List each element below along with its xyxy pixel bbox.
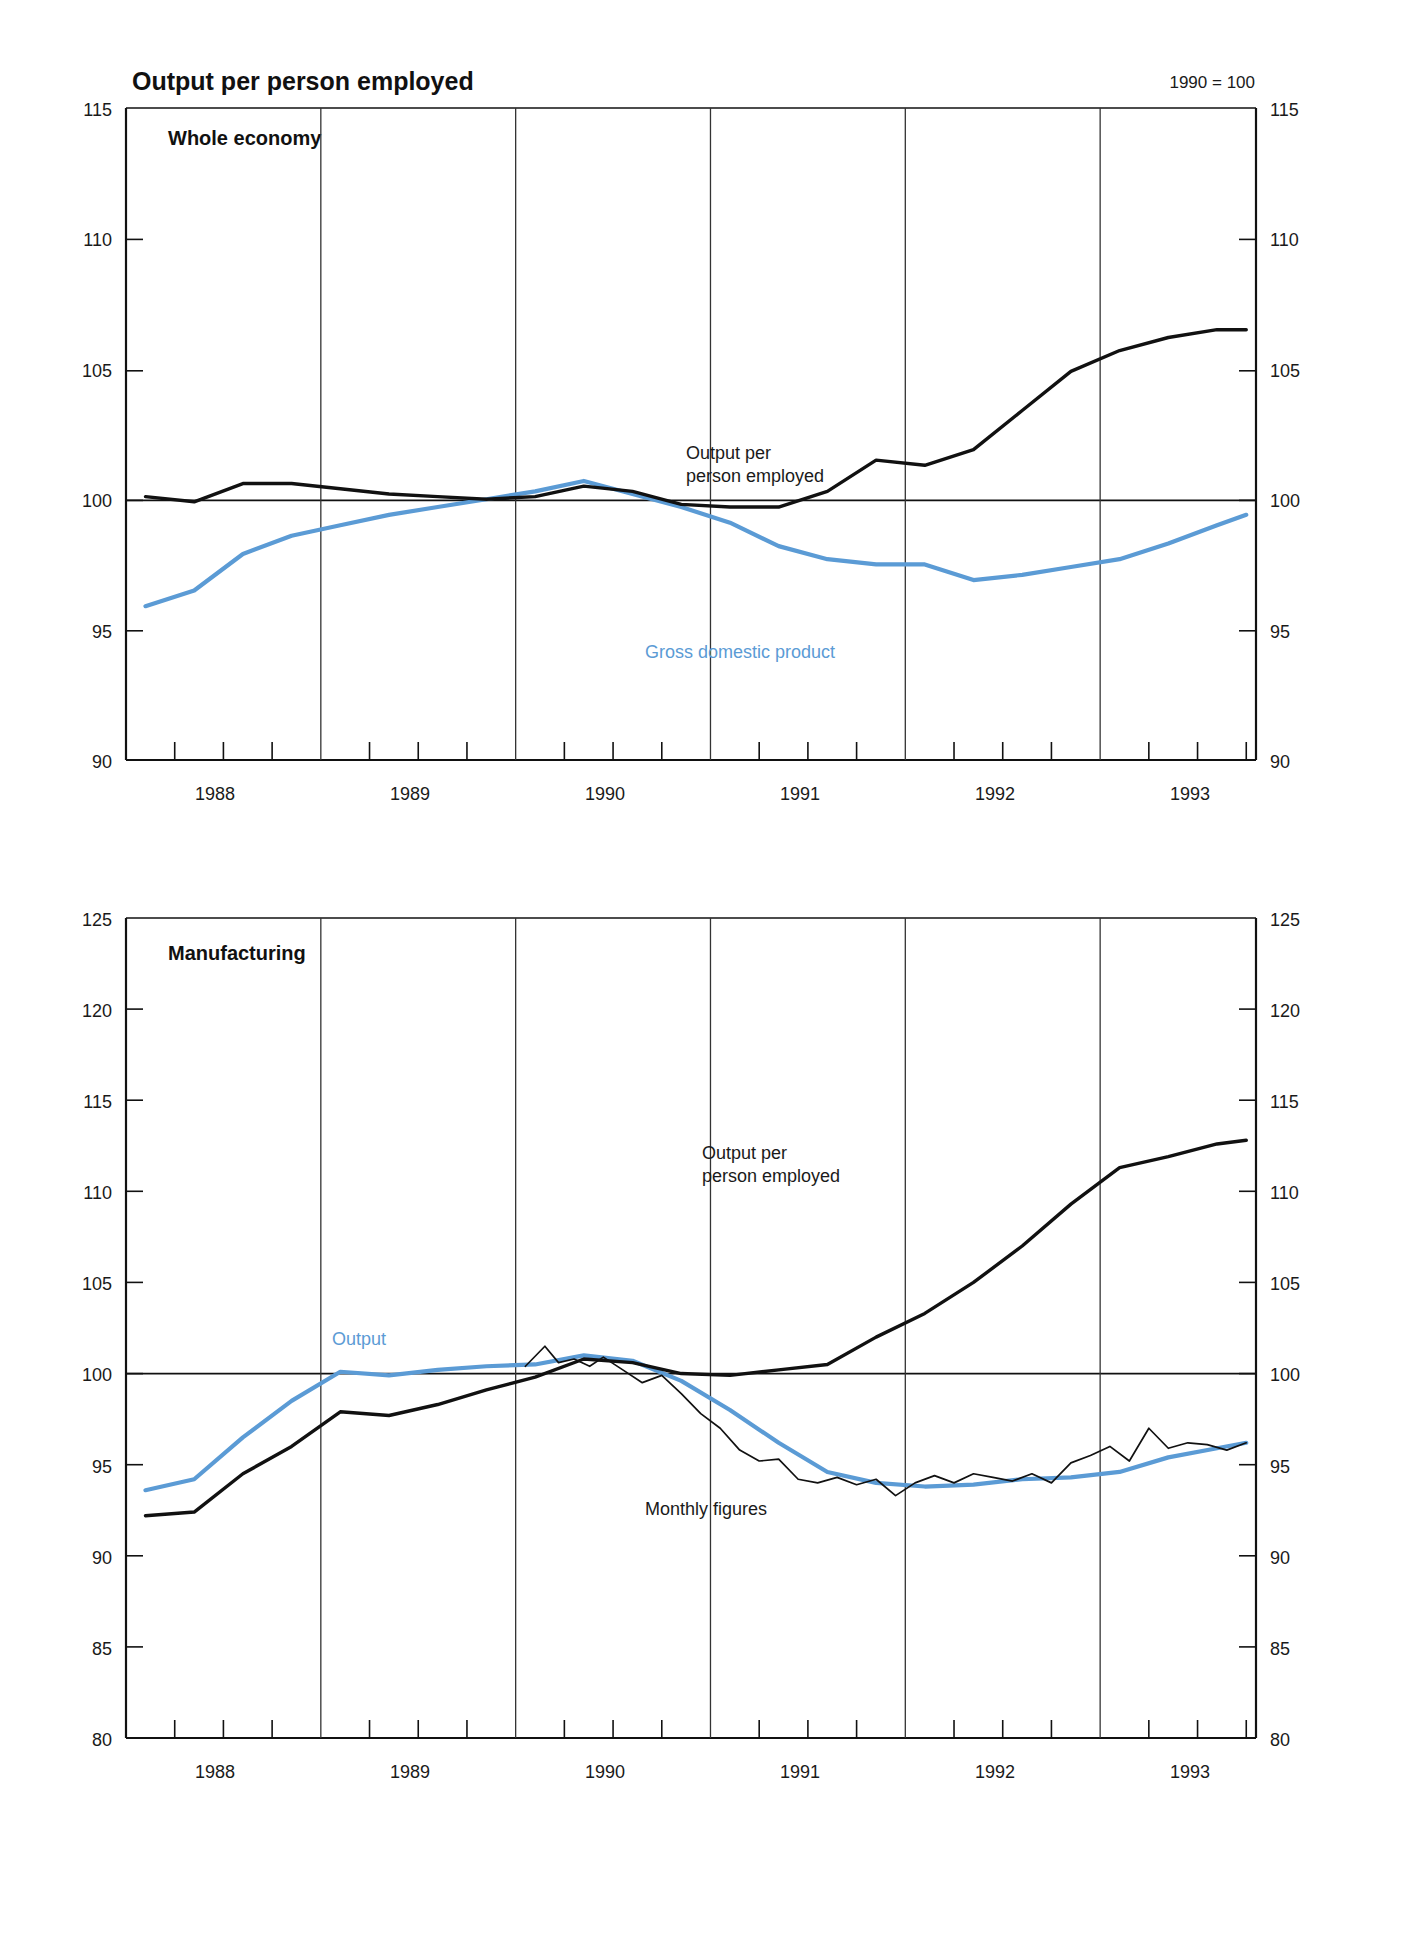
y-tick-label: 90 (92, 752, 112, 772)
figure-title: Output per person employed (132, 67, 474, 95)
x-axis-labels-manufacturing: 1988 1989 1990 1991 1992 1993 (195, 1762, 1210, 1782)
y-tick-label: 90 (92, 1548, 112, 1568)
chart-manufacturing: Manufacturing 125 120 115 110 105 100 95… (0, 890, 1406, 1910)
x-tick-label: 1990 (585, 1762, 625, 1782)
y-tick-label: 110 (83, 230, 112, 250)
figure-page: Output per person employed 1990 = 100 Wh… (0, 0, 1406, 1946)
y-tick-label: 90 (1270, 1548, 1290, 1568)
x-tick-label: 1993 (1170, 784, 1210, 804)
plot-frame-manufacturing (126, 918, 1256, 1738)
annotation-monthly-figures: Monthly figures (645, 1499, 767, 1519)
y-tick-label: 100 (82, 491, 112, 511)
y-tick-label: 100 (82, 1365, 112, 1385)
y-axis-left-manufacturing: 125 120 115 110 105 100 95 90 85 80 (82, 910, 143, 1750)
y-tick-label: 80 (92, 1730, 112, 1750)
y-axis-right-manufacturing: 125 120 115 110 105 100 95 90 85 80 (1239, 910, 1300, 1750)
y-tick-label: 95 (92, 622, 112, 642)
y-tick-label: 120 (1270, 1001, 1300, 1021)
y-tick-label: 105 (82, 361, 112, 381)
x-tick-label: 1991 (780, 1762, 820, 1782)
y-tick-label: 105 (1270, 1274, 1300, 1294)
y-tick-label: 95 (1270, 622, 1290, 642)
y-tick-label: 95 (1270, 1457, 1290, 1477)
x-tick-label: 1993 (1170, 1762, 1210, 1782)
y-tick-label: 115 (1270, 100, 1299, 120)
y-tick-label: 80 (1270, 1730, 1290, 1750)
x-tick-label: 1991 (780, 784, 820, 804)
annotation-output-line2: person employed (702, 1166, 840, 1186)
y-axis-left-whole-economy: 115 110 105 100 95 90 (82, 100, 143, 772)
y-tick-label: 110 (83, 1183, 112, 1203)
annotation-output-line2: person employed (686, 466, 824, 486)
y-tick-label: 100 (1270, 1365, 1300, 1385)
panel-title-whole-economy: Whole economy (168, 127, 322, 149)
series-line-monthly-figures (525, 1346, 1246, 1495)
panel-title-manufacturing: Manufacturing (168, 942, 306, 964)
x-tick-label: 1989 (390, 1762, 430, 1782)
y-tick-label: 105 (82, 1274, 112, 1294)
y-tick-label: 115 (1270, 1092, 1299, 1112)
chart-whole-economy: Output per person employed 1990 = 100 Wh… (0, 40, 1406, 870)
y-tick-label: 85 (1270, 1639, 1290, 1659)
y-tick-label: 125 (82, 910, 112, 930)
plot-frame-whole-economy (126, 108, 1256, 760)
y-tick-label: 90 (1270, 752, 1290, 772)
y-tick-label: 110 (1270, 230, 1299, 250)
y-tick-label: 95 (92, 1457, 112, 1477)
y-tick-label: 125 (1270, 910, 1300, 930)
annotation-output-line1: Output per (686, 443, 771, 463)
y-tick-label: 85 (92, 1639, 112, 1659)
figure-note: 1990 = 100 (1169, 73, 1255, 92)
annotation-output-line1: Output per (702, 1143, 787, 1163)
annotation-output: Output (332, 1329, 386, 1349)
x-tick-label: 1988 (195, 1762, 235, 1782)
annotation-gross-domestic-product: Gross domestic product (645, 642, 835, 662)
y-tick-label: 105 (1270, 361, 1300, 381)
whole-economy-svg: Output per person employed 1990 = 100 Wh… (0, 40, 1406, 870)
y-tick-label: 100 (1270, 491, 1300, 511)
x-axis-gridlines-whole-economy (175, 108, 1247, 760)
y-tick-label: 115 (83, 1092, 112, 1112)
y-tick-label: 115 (83, 100, 112, 120)
x-tick-label: 1990 (585, 784, 625, 804)
manufacturing-svg: Manufacturing 125 120 115 110 105 100 95… (0, 890, 1406, 1910)
y-tick-label: 110 (1270, 1183, 1299, 1203)
x-tick-label: 1992 (975, 784, 1015, 804)
x-tick-label: 1992 (975, 1762, 1015, 1782)
x-axis-labels-whole-economy: 1988 1989 1990 1991 1992 1993 (195, 784, 1210, 804)
y-axis-right-whole-economy: 115 110 105 100 95 90 (1239, 100, 1300, 772)
x-tick-label: 1988 (195, 784, 235, 804)
x-tick-label: 1989 (390, 784, 430, 804)
y-tick-label: 120 (82, 1001, 112, 1021)
x-axis-gridlines-manufacturing (175, 918, 1247, 1738)
